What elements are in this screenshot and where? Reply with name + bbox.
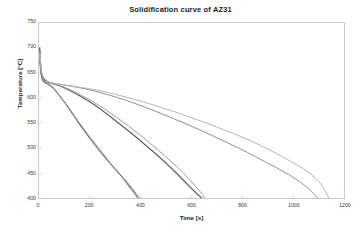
y-tick-label: 550: [14, 121, 36, 126]
x-tick-label: 1200: [330, 203, 360, 208]
x-axis-tick-labels: 020040060080010001200: [38, 203, 345, 213]
y-tick-label: 400: [14, 196, 36, 201]
y-tick-label: 500: [14, 146, 36, 151]
chart-figure: Solidification curve of AZ31 Temperature…: [0, 0, 361, 233]
x-tick-label: 800: [228, 203, 258, 208]
curve-cooling-curve-fastest: [39, 48, 138, 198]
y-axis-tick-labels: 400450500550600650700750: [10, 22, 36, 199]
x-tick-label: 0: [23, 203, 53, 208]
x-tick-label: 200: [74, 203, 104, 208]
plot-curves: [39, 23, 344, 198]
x-tick-label: 400: [125, 203, 155, 208]
plot-area: [38, 22, 345, 199]
y-tick-label: 700: [14, 45, 36, 50]
curve-cooling-curve-slowest-b: [39, 54, 329, 198]
chart-title: Solidification curve of AZ31: [0, 5, 361, 14]
x-axis-label: Time [s]: [38, 214, 345, 221]
y-tick-label: 650: [14, 70, 36, 75]
curve-cooling-curve-fastest-duplicate: [39, 50, 139, 198]
x-tick-label: 600: [177, 203, 207, 208]
y-tick-label: 750: [14, 19, 36, 24]
x-tick-label: 1000: [279, 203, 309, 208]
y-tick-label: 450: [14, 171, 36, 176]
y-tick-label: 600: [14, 95, 36, 100]
